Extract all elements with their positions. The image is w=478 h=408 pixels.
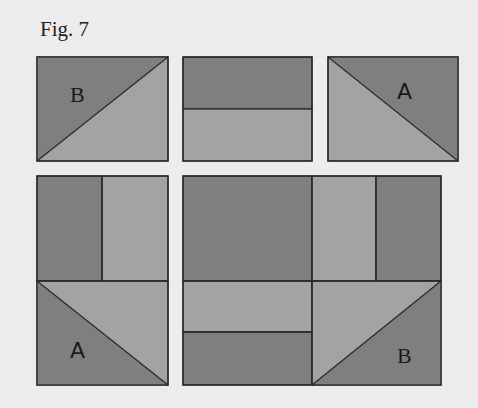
label-bottom-left: A bbox=[70, 338, 85, 363]
quilt-block-diagram: B A A B bbox=[0, 0, 478, 408]
top-right-triangle-block bbox=[328, 57, 458, 161]
label-bottom-right: B bbox=[397, 343, 412, 368]
top-left-triangle-block bbox=[37, 57, 168, 161]
label-top-left: B bbox=[70, 82, 85, 107]
label-top-right: A bbox=[397, 79, 412, 104]
top-middle-strip-block bbox=[183, 57, 312, 161]
bottom-left-block bbox=[37, 176, 168, 385]
